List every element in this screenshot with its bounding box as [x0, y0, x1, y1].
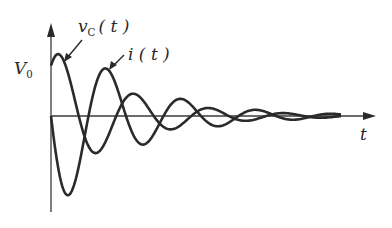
v0-main: V [14, 58, 26, 78]
vc-main: v [78, 16, 88, 36]
x-axis-arrow-icon [363, 112, 376, 120]
vc-label: vC( t ) [78, 16, 129, 38]
v0-tick-label: V0 [14, 58, 33, 80]
vc-curve [51, 54, 341, 153]
damped-oscillation-chart [0, 0, 392, 228]
y-axis-arrow-icon [47, 23, 55, 37]
t-axis-label: t [360, 124, 367, 144]
vc-args: ( t ) [98, 16, 129, 36]
i-curve [51, 68, 341, 195]
i-label: i ( t ) [128, 44, 170, 64]
vc-sub: C [88, 27, 96, 38]
v0-sub: 0 [26, 69, 32, 80]
